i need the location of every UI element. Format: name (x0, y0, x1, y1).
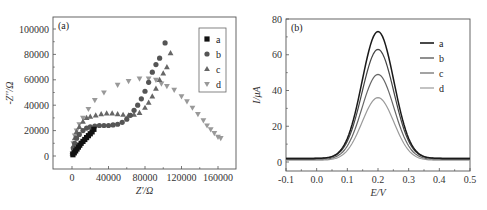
y-axis-title: I/μA (251, 85, 262, 104)
legend-label-c: c (216, 64, 221, 75)
triangle-up-marker (149, 93, 155, 98)
x-tick-label: 0.1 (341, 174, 354, 185)
triangle-up-marker (98, 111, 104, 116)
y-tick-label: 0 (44, 151, 49, 162)
circle-marker (128, 113, 133, 118)
legend-label-a: a (439, 38, 444, 49)
x-tick-label: 0 (70, 172, 75, 183)
circle-marker (157, 56, 162, 61)
triangle-up-marker (142, 105, 148, 110)
triangle-down-marker (195, 112, 201, 117)
y-tick-label: 40000 (24, 100, 49, 111)
circle-marker (101, 123, 106, 128)
x-tick-label: 0.3 (402, 174, 415, 185)
triangle-up-marker (104, 110, 110, 115)
triangle-down-marker (101, 90, 107, 95)
panel-a-eis-plot: 0400008000012000016000002000040000600008… (4, 17, 236, 196)
triangle-down-marker (126, 79, 132, 84)
triangle-down-marker (164, 84, 170, 89)
y-tick-label: 80000 (24, 49, 49, 60)
y-tick-label: 20000 (24, 125, 49, 136)
legend-label-d: d (439, 83, 444, 94)
x-tick-label: 0.2 (372, 174, 385, 185)
x-tick-label: 40000 (96, 172, 121, 183)
y-axis-title: -Z''/Ω (4, 81, 15, 104)
triangle-down-marker (86, 107, 92, 112)
x-tick-label: 0.4 (433, 174, 446, 185)
legend-label-d: d (216, 79, 221, 90)
triangle-down-marker (115, 83, 121, 88)
triangle-down-marker (184, 99, 190, 104)
legend: abcd (199, 28, 226, 92)
circle-marker (135, 103, 140, 108)
triangle-up-marker (160, 70, 166, 75)
y-tick-label: 100000 (19, 24, 49, 35)
triangle-up-marker (87, 114, 93, 119)
triangle-up-marker (146, 100, 152, 105)
triangle-down-marker (201, 118, 207, 123)
x-tick-label: 0.0 (310, 174, 323, 185)
circle-marker (146, 80, 151, 85)
triangle-down-marker (92, 98, 98, 103)
circle-marker (97, 123, 102, 128)
triangle-down-marker (137, 76, 143, 81)
triangle-up-marker (164, 64, 170, 69)
triangle-up-marker (120, 112, 126, 117)
triangle-down-marker (171, 88, 177, 93)
triangle-down-marker (159, 82, 165, 87)
square-marker (91, 127, 96, 132)
square-marker (204, 36, 209, 41)
x-axis-title: Z'/Ω (136, 185, 154, 196)
circle-marker (204, 51, 209, 56)
triangle-up-marker (137, 110, 143, 115)
circle-marker (106, 123, 111, 128)
y-tick-label: 80 (272, 14, 282, 25)
legend-box (199, 28, 226, 92)
circle-marker (120, 120, 125, 125)
panel-b-dpv-plot: -0.10.00.10.20.30.40.5020406080E/VI/μA(b… (251, 14, 476, 199)
x-tick-label: 0.5 (464, 174, 477, 185)
curve-d (286, 98, 470, 161)
circle-marker (162, 40, 167, 45)
curve-a (286, 32, 470, 159)
figure: 0400008000012000016000002000040000600008… (0, 0, 487, 210)
triangle-up-marker (168, 50, 174, 55)
legend-label-b: b (439, 53, 444, 64)
triangle-down-marker (190, 106, 196, 111)
triangle-up-marker (115, 111, 121, 116)
x-axis-title: E/V (370, 187, 388, 198)
circle-marker (139, 96, 144, 101)
x-tick-label: 80000 (133, 172, 158, 183)
y-tick-label: 0 (277, 157, 282, 168)
legend-label-c: c (439, 68, 444, 79)
x-tick-label: -0.1 (278, 174, 294, 185)
circle-marker (131, 108, 136, 113)
y-tick-label: 60000 (24, 74, 49, 85)
triangle-up-marker (93, 112, 99, 117)
circle-marker (77, 132, 82, 137)
legend: abcd (420, 38, 444, 94)
triangle-up-marker (109, 110, 115, 115)
y-tick-label: 40 (272, 85, 282, 96)
y-tick-label: 20 (272, 121, 282, 132)
x-tick-label: 160000 (203, 172, 233, 183)
legend-label-a: a (216, 34, 221, 45)
circle-marker (142, 89, 147, 94)
triangle-up-marker (153, 86, 159, 91)
circle-marker (150, 70, 155, 75)
panel-label: (b) (291, 22, 303, 34)
circle-marker (110, 122, 115, 127)
legend-label-b: b (216, 49, 221, 60)
panel-label: (a) (58, 20, 69, 32)
x-tick-label: 120000 (167, 172, 197, 183)
circle-marker (153, 62, 158, 67)
y-tick-label: 60 (272, 49, 282, 60)
curve-b (286, 49, 470, 158)
triangle-down-marker (179, 94, 185, 99)
triangle-up-marker (76, 124, 82, 129)
circle-marker (115, 122, 120, 127)
circle-marker (124, 117, 129, 122)
